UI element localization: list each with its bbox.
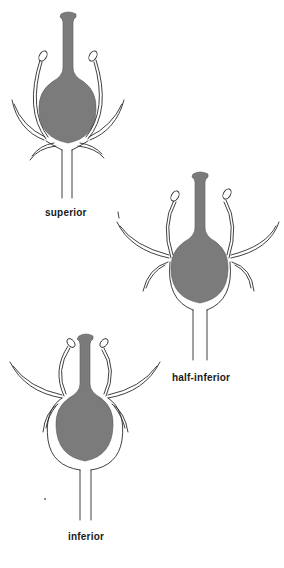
ovary-position-diagram: superior half-inferior inferior [0, 0, 284, 568]
label-superior: superior [45, 207, 87, 218]
stamen-left-half-inferior [166, 200, 176, 258]
anther-right-half-inferior [221, 187, 233, 200]
stray-mark-top [118, 212, 119, 218]
flower-superior [12, 12, 124, 198]
sepal-left-half-inferior [143, 262, 168, 291]
anther-right-inferior [98, 337, 109, 349]
sepal-right-superior [78, 143, 104, 158]
sepal-right-inferior [112, 404, 128, 432]
petal-left-half-inferior [117, 222, 169, 258]
stray-mark [44, 498, 46, 500]
stamen-left-inferior [59, 346, 70, 396]
anther-left-superior [37, 49, 49, 62]
stamen-right-inferior [102, 348, 112, 396]
sepal-left-inferior [43, 404, 58, 432]
anther-left-half-inferior [169, 189, 181, 202]
sepal-left-superior [30, 143, 56, 160]
petal-right-inferior [108, 362, 160, 398]
pistil-superior [39, 12, 96, 143]
sepal-right-half-inferior [232, 262, 254, 291]
stem-half-inferior [193, 310, 207, 360]
label-half-inferior: half-inferior [172, 372, 230, 383]
anther-right-superior [87, 49, 99, 62]
stamen-right-half-inferior [224, 200, 234, 258]
pistil-inferior [56, 334, 113, 461]
flower-half-inferior [117, 172, 279, 360]
stem-superior [62, 150, 72, 198]
flower-inferior [10, 334, 160, 520]
label-inferior: inferior [68, 531, 104, 542]
stem-inferior [80, 470, 91, 520]
petal-right-half-inferior [231, 222, 279, 258]
pistil-half-inferior [171, 172, 228, 303]
petal-left-inferior [10, 362, 62, 398]
